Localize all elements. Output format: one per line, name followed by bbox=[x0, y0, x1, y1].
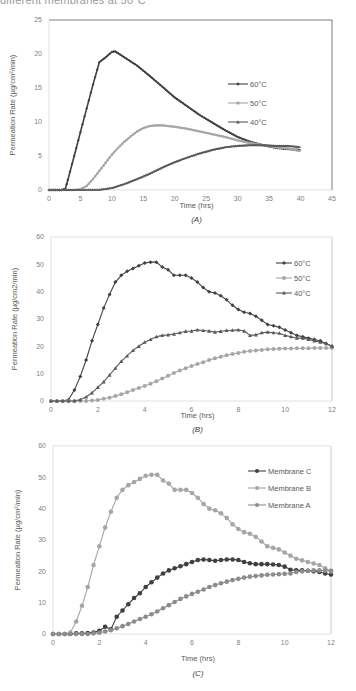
x-axis-title: Time (hrs) bbox=[181, 654, 215, 663]
data-point-marker bbox=[236, 558, 241, 563]
data-point-marker bbox=[143, 585, 148, 590]
chart-b: 0102030405060024681012Time (hrs)Permeati… bbox=[0, 225, 356, 440]
data-point-marker bbox=[161, 606, 166, 611]
data-point-marker bbox=[104, 162, 106, 164]
x-tick-label: 2 bbox=[97, 639, 101, 646]
data-point-marker bbox=[167, 603, 172, 608]
data-point-marker bbox=[222, 135, 224, 137]
data-point-marker bbox=[253, 574, 258, 579]
data-point-marker bbox=[126, 602, 131, 607]
data-point-marker bbox=[248, 531, 253, 536]
data-point-marker bbox=[178, 597, 183, 602]
data-point-marker bbox=[157, 124, 159, 126]
data-point-marker bbox=[219, 511, 224, 516]
x-axis-title: Time (hrs) bbox=[181, 411, 215, 420]
data-point-marker bbox=[161, 571, 166, 576]
data-point-marker bbox=[172, 488, 177, 493]
data-point-marker bbox=[311, 568, 316, 573]
data-point-marker bbox=[180, 127, 182, 129]
data-point-marker bbox=[149, 260, 153, 264]
data-point-marker bbox=[109, 156, 111, 158]
data-point-marker bbox=[236, 82, 240, 86]
series-membrane-a bbox=[51, 568, 334, 636]
data-point-marker bbox=[283, 328, 287, 332]
data-point-marker bbox=[213, 134, 215, 136]
data-point-marker bbox=[78, 374, 82, 378]
panel-label: (A) bbox=[191, 215, 202, 224]
data-point-marker bbox=[90, 180, 92, 182]
data-point-marker bbox=[216, 134, 218, 136]
data-point-marker bbox=[136, 130, 138, 132]
data-point-marker bbox=[329, 568, 334, 573]
data-point-marker bbox=[182, 127, 184, 129]
data-point-marker bbox=[84, 399, 88, 403]
data-point-marker bbox=[225, 353, 229, 357]
data-point-marker bbox=[102, 164, 104, 166]
data-point-marker bbox=[289, 331, 293, 335]
x-tick-label: 0 bbox=[51, 639, 55, 646]
x-tick-label: 5 bbox=[78, 195, 82, 202]
data-point-marker bbox=[293, 149, 295, 151]
data-point-marker bbox=[102, 306, 106, 310]
data-point-marker bbox=[259, 573, 264, 578]
data-point-marker bbox=[255, 486, 259, 490]
data-point-marker bbox=[131, 388, 135, 392]
data-point-marker bbox=[178, 564, 183, 569]
x-tick-label: 35 bbox=[265, 195, 273, 202]
data-point-marker bbox=[282, 261, 286, 265]
legend-item: 50°C bbox=[228, 99, 267, 108]
data-point-marker bbox=[142, 127, 144, 129]
data-point-marker bbox=[178, 488, 183, 493]
data-point-marker bbox=[91, 631, 96, 636]
data-point-marker bbox=[62, 632, 67, 637]
data-point-marker bbox=[96, 173, 98, 175]
data-point-marker bbox=[97, 544, 102, 549]
data-point-marker bbox=[219, 558, 224, 563]
data-point-marker bbox=[102, 397, 106, 401]
data-point-marker bbox=[165, 125, 167, 127]
x-tick-label: 10 bbox=[281, 639, 289, 646]
data-point-marker bbox=[207, 506, 212, 511]
data-point-marker bbox=[253, 535, 258, 540]
data-point-marker bbox=[155, 609, 160, 614]
x-tick-label: 10 bbox=[281, 406, 289, 413]
data-point-marker bbox=[207, 585, 212, 590]
x-tick-label: 8 bbox=[236, 639, 240, 646]
data-point-marker bbox=[138, 477, 143, 482]
data-point-marker bbox=[265, 572, 270, 577]
data-point-marker bbox=[149, 580, 154, 585]
data-point-marker bbox=[195, 362, 199, 366]
data-point-marker bbox=[184, 562, 189, 567]
data-point-marker bbox=[265, 562, 270, 567]
data-point-marker bbox=[224, 136, 226, 138]
legend-label: 60°C bbox=[294, 259, 311, 268]
data-point-marker bbox=[98, 170, 100, 172]
data-point-marker bbox=[318, 346, 322, 350]
y-tick-label: 60 bbox=[38, 442, 46, 449]
data-point-marker bbox=[285, 147, 287, 149]
data-point-marker bbox=[255, 503, 259, 507]
y-axis-title: Permeation Rate (µg/cm²/min) bbox=[8, 54, 17, 155]
legend-item: 60°C bbox=[228, 80, 267, 89]
data-point-marker bbox=[259, 562, 264, 567]
data-point-marker bbox=[80, 604, 85, 609]
data-point-marker bbox=[161, 124, 163, 126]
data-point-marker bbox=[245, 141, 247, 143]
data-point-marker bbox=[132, 480, 137, 485]
data-point-marker bbox=[248, 561, 253, 566]
data-point-marker bbox=[137, 264, 141, 268]
data-point-marker bbox=[287, 147, 289, 149]
legend-item: Membrane B bbox=[248, 484, 311, 493]
data-point-marker bbox=[197, 130, 199, 132]
x-tick-label: 45 bbox=[328, 195, 336, 202]
legend-label: Membrane A bbox=[268, 501, 311, 510]
data-point-marker bbox=[163, 125, 165, 127]
x-tick-label: 6 bbox=[190, 639, 194, 646]
series-40-c bbox=[48, 144, 301, 191]
data-point-marker bbox=[242, 575, 247, 580]
data-point-marker bbox=[86, 185, 88, 187]
data-point-marker bbox=[130, 135, 132, 137]
data-point-marker bbox=[237, 102, 240, 105]
data-point-marker bbox=[137, 386, 141, 390]
data-point-marker bbox=[125, 390, 129, 394]
